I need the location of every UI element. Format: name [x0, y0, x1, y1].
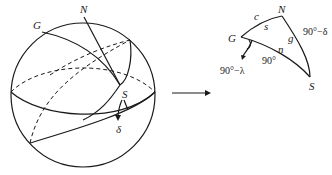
label-G: G — [33, 19, 41, 31]
angle-annotation-arrow — [243, 40, 252, 56]
angle-label-n: n — [278, 43, 284, 55]
great-circle-front-1 — [11, 92, 155, 114]
arc-G-to-S — [42, 32, 120, 85]
delta-arrowhead — [115, 115, 121, 121]
vertex-S: S — [309, 80, 315, 92]
great-circle-back-1 — [11, 68, 155, 92]
celestial-sphere: G N S δ — [11, 3, 155, 167]
spherical-triangle: G N S c s g n 90°−δ 90° 90°−λ — [220, 3, 328, 92]
great-circle-front-2 — [30, 92, 155, 143]
vertex-G: G — [228, 32, 236, 44]
angle-label-s: s — [264, 20, 268, 32]
angle-label-90-lambda: 90°−λ — [220, 65, 245, 76]
angle-label-g: g — [288, 32, 294, 44]
side-label-90-delta: 90°−δ — [303, 26, 328, 37]
spherical-triangle-diagram: G N S δ G N S c s g n 90°−δ 90° 90°−λ — [0, 0, 332, 175]
side-label-c: c — [254, 10, 259, 22]
label-delta: δ — [116, 123, 122, 135]
arrow-head-icon — [205, 90, 211, 96]
transform-arrow — [172, 90, 211, 96]
angle-arrowhead — [241, 55, 246, 60]
vertex-N: N — [277, 3, 286, 15]
sphere-outline — [11, 23, 155, 167]
label-N: N — [79, 3, 88, 15]
side-label-90: 90° — [262, 55, 276, 66]
label-S: S — [122, 88, 128, 100]
side-GN — [241, 16, 282, 37]
arc-N-to-S — [84, 17, 120, 85]
